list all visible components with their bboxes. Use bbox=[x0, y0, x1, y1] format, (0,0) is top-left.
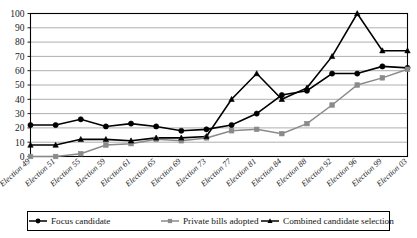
data-point-marker bbox=[53, 122, 58, 127]
chart-container: 0102030405060708090100 Election 49Electi… bbox=[0, 0, 417, 238]
data-point-marker bbox=[355, 71, 360, 76]
legend-items-group: Focus candidatePrivate bills adoptedComb… bbox=[29, 216, 394, 226]
line-chart: 0102030405060708090100 Election 49Electi… bbox=[0, 0, 417, 238]
data-point-marker bbox=[330, 71, 335, 76]
legend-marker bbox=[36, 219, 41, 224]
y-axis-tick-label: 60 bbox=[15, 66, 25, 76]
y-axis-tick-label: 90 bbox=[15, 23, 25, 33]
y-axis-tick-label: 20 bbox=[15, 123, 25, 133]
data-point-marker bbox=[380, 76, 385, 81]
data-point-marker bbox=[104, 143, 109, 148]
data-point-marker bbox=[380, 64, 385, 69]
data-point-marker bbox=[128, 121, 133, 126]
y-axis-tick-label: 100 bbox=[10, 9, 25, 19]
data-point-marker bbox=[154, 124, 159, 129]
data-point-marker bbox=[330, 103, 335, 108]
y-axis-tick-label: 30 bbox=[15, 109, 25, 119]
legend-item-label: Combined candidate selection bbox=[283, 216, 394, 226]
y-axis-tick-label: 70 bbox=[15, 52, 25, 62]
data-point-marker bbox=[405, 67, 410, 72]
data-point-marker bbox=[28, 154, 33, 159]
y-axis-tick-label: 50 bbox=[15, 80, 25, 90]
legend-marker bbox=[168, 219, 172, 223]
chart-background bbox=[0, 0, 417, 238]
chart-legend: Focus candidatePrivate bills adoptedComb… bbox=[28, 212, 395, 231]
data-point-marker bbox=[28, 122, 33, 127]
data-point-marker bbox=[254, 127, 259, 132]
data-point-marker bbox=[355, 83, 360, 88]
data-point-marker bbox=[78, 151, 83, 156]
legend-item-label: Focus candidate bbox=[51, 216, 110, 226]
data-point-marker bbox=[229, 128, 234, 133]
data-point-marker bbox=[179, 128, 184, 133]
data-point-marker bbox=[78, 117, 83, 122]
y-axis-tick-label: 40 bbox=[15, 95, 25, 105]
y-axis-tick-label: 80 bbox=[15, 37, 25, 47]
data-point-marker bbox=[204, 127, 209, 132]
data-point-marker bbox=[229, 122, 234, 127]
legend-item-label: Private bills adopted bbox=[183, 216, 259, 226]
data-point-marker bbox=[103, 124, 108, 129]
y-axis-tick-label: 10 bbox=[15, 138, 25, 148]
data-point-marker bbox=[280, 131, 285, 136]
data-point-marker bbox=[53, 154, 58, 159]
data-point-marker bbox=[305, 121, 310, 126]
data-point-marker bbox=[254, 111, 259, 116]
